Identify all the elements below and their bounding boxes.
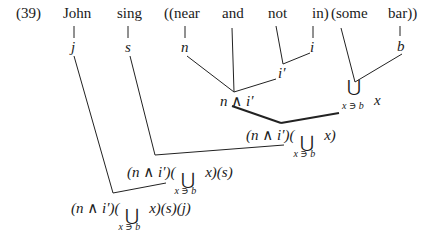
symbol-i: i <box>310 40 314 55</box>
node-level3: (n ∧ i′)(⋃x ∋ b x)(s)(j) <box>71 201 191 216</box>
edge-union-to-l1 <box>281 113 339 123</box>
edge-b <box>355 54 402 82</box>
node-n-and-i-prime: n ∧ i′ <box>220 94 253 109</box>
edge-n <box>187 56 234 92</box>
edge-l2-to-l3 <box>113 183 166 193</box>
edge-and <box>232 28 234 92</box>
word-some: (some <box>331 6 368 21</box>
level1-sub: x ∋ b <box>293 149 315 159</box>
word-sing: sing <box>117 6 142 21</box>
node-level2: (n ∧ i′)(⋃x ∋ b x)(s) <box>127 165 233 180</box>
level2-sub: x ∋ b <box>174 186 196 196</box>
level3-prefix: (n ∧ i′)( <box>71 200 119 216</box>
symbol-n: n <box>181 40 189 55</box>
node-level1: (n ∧ i′)(⋃x ∋ b x) <box>246 128 336 143</box>
level3-sub: x ∋ b <box>118 222 140 231</box>
word-bar: bar)) <box>388 6 417 21</box>
word-john: John <box>63 6 91 21</box>
edge-s <box>130 56 155 155</box>
edge-l1-to-l2 <box>155 145 284 155</box>
level2-prefix: (n ∧ i′)( <box>127 164 175 180</box>
symbol-s: s <box>125 40 131 55</box>
edge-not <box>276 26 283 64</box>
level1-prefix: (n ∧ i′)( <box>246 127 294 143</box>
edge-j <box>74 56 113 193</box>
union-symbol: ⋃ <box>347 78 361 95</box>
word-in: in) <box>312 6 329 21</box>
edge-iprime <box>234 79 276 92</box>
symbol-b: b <box>397 39 405 54</box>
tree-edges <box>0 0 424 231</box>
symbol-j: j <box>71 40 75 55</box>
word-near: ((near <box>164 6 200 21</box>
union-subscript: x ∋ b <box>342 100 364 111</box>
edge-some <box>341 28 355 82</box>
level2-suffix: x)(s) <box>205 164 232 180</box>
level3-suffix: x)(s)(j) <box>149 200 191 216</box>
level1-suffix: x) <box>324 127 336 143</box>
word-not: not <box>268 6 287 21</box>
union-variable: x <box>374 93 381 108</box>
example-number: (39) <box>16 6 41 21</box>
edge-i-to-iprime <box>283 53 310 64</box>
word-and: and <box>222 6 244 21</box>
node-i-prime: i′ <box>278 66 285 81</box>
